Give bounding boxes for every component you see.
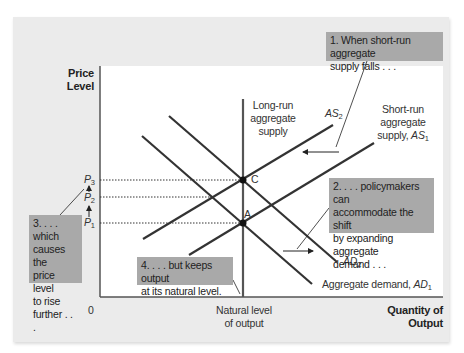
x-axis-label-line1: Quantity of — [380, 304, 443, 317]
as2-label: AS2 — [325, 107, 343, 123]
natural-level-line2: of output — [203, 317, 285, 330]
p3-label: P3 — [84, 173, 95, 189]
y-axis-label-line1: Price — [50, 67, 94, 80]
note-2-line2: accommodate the shift — [333, 206, 430, 232]
as1-label: Short-run aggregate supply, AS1 — [368, 103, 438, 145]
lras-label-line3: supply — [243, 125, 303, 138]
lras-label-line2: aggregate — [243, 112, 303, 125]
note2-leader — [297, 208, 329, 249]
note-4: 4. . . . but keeps output at its natural… — [137, 257, 233, 285]
x-axis-label: Quantity of Output — [380, 304, 443, 330]
natural-level-label: Natural level of output — [203, 304, 285, 330]
lras-label-line1: Long-run — [243, 99, 303, 112]
p2-label: P2 — [84, 191, 95, 207]
x-axis-label-line2: Output — [380, 317, 443, 330]
note-2-line3: by expanding aggregate — [333, 232, 430, 258]
note-1: 1. When short-run aggregate supply falls… — [326, 32, 443, 61]
note-3-line3: price level — [33, 269, 78, 295]
y-axis-label-line2: Level — [50, 80, 94, 93]
as1-label-line3: supply, AS1 — [368, 129, 438, 145]
note-4-line2: at its natural level. — [141, 285, 229, 298]
point-c — [240, 177, 247, 184]
origin-label: 0 — [88, 304, 94, 317]
note-3-line2: causes the — [33, 243, 78, 269]
note-1-line2: supply falls . . . — [330, 60, 439, 73]
p1-label: P1 — [84, 216, 95, 232]
natural-level-line1: Natural level — [203, 304, 285, 317]
note-4-line1: 4. . . . but keeps output — [141, 259, 229, 285]
note-3-line4: to rise — [33, 295, 78, 308]
note3-leader — [60, 189, 84, 215]
note-3-line1: 3. . . . which — [33, 217, 78, 243]
ad1-label: Aggregate demand, AD1 — [322, 278, 432, 294]
as2-line — [143, 125, 333, 239]
y-axis-label: Price Level — [50, 67, 94, 93]
as1-label-line1: Short-run — [368, 103, 438, 116]
point-c-label: C — [251, 173, 258, 186]
note-3: 3. . . . which causes the price level to… — [29, 215, 82, 283]
note-2-line4: demand . . . — [333, 258, 430, 271]
note-2: 2. . . . policymakers can accommodate th… — [329, 178, 434, 233]
note-2-line1: 2. . . . policymakers can — [333, 180, 430, 206]
as1-label-line2: aggregate — [368, 116, 438, 129]
lras-label: Long-run aggregate supply — [243, 99, 303, 138]
note-1-line1: 1. When short-run aggregate — [330, 34, 439, 60]
point-a-label: A — [244, 208, 251, 221]
note1-leader — [336, 61, 367, 147]
note4-leader — [233, 280, 240, 294]
note-3-line5: further . . . — [33, 308, 78, 334]
